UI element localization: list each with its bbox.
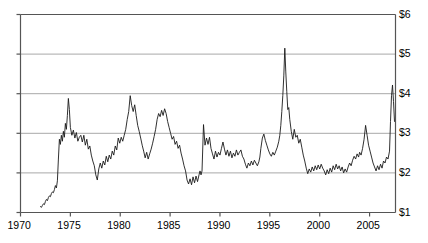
y-axis-tick-label: $1 bbox=[399, 206, 411, 218]
chart-figure: $1$2$3$4$5$6 197019751980198519901995200… bbox=[0, 0, 428, 243]
price-series-line bbox=[40, 48, 394, 207]
x-axis-tick-label: 1985 bbox=[157, 219, 180, 231]
line-chart-canvas bbox=[0, 0, 428, 243]
x-axis-tick-label: 1990 bbox=[207, 219, 230, 231]
y-axis-tick-label: $4 bbox=[399, 87, 411, 99]
x-axis-tick-label: 2005 bbox=[357, 219, 380, 231]
y-axis-tick-label: $3 bbox=[399, 126, 411, 138]
y-axis-tick-label: $6 bbox=[399, 8, 411, 20]
x-axis-tick-label: 1995 bbox=[257, 219, 280, 231]
axis-lines bbox=[21, 15, 396, 213]
x-axis-tick-label: 1970 bbox=[8, 219, 31, 231]
y-axis-tick-label: $5 bbox=[399, 47, 411, 59]
gridlines bbox=[21, 15, 396, 173]
x-axis-tick-label: 2000 bbox=[307, 219, 330, 231]
x-axis-tick-label: 1975 bbox=[57, 219, 80, 231]
y-axis-tick-label: $2 bbox=[399, 166, 411, 178]
x-axis-tick-label: 1980 bbox=[107, 219, 130, 231]
